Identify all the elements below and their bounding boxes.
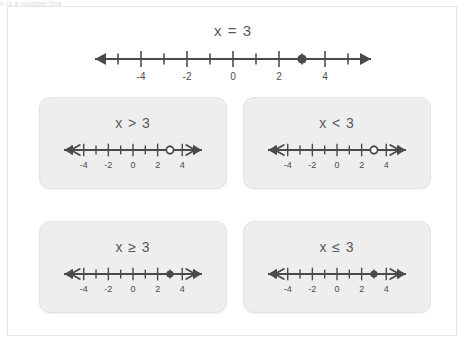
- card-number-line: -4-2024: [53, 138, 213, 176]
- tick-label: 0: [334, 160, 339, 170]
- tick-label: -4: [80, 284, 88, 294]
- card-greater-than-or-equal[interactable]: x ≥ 3 -4-2024: [39, 221, 227, 313]
- tick-label: -4: [137, 71, 146, 82]
- tick-label: 4: [384, 284, 389, 294]
- card-title: x < 3: [244, 114, 430, 132]
- main-title: x = 3: [8, 21, 458, 41]
- tick-label: 0: [230, 71, 236, 82]
- card-number-line: -4-2024: [53, 262, 213, 300]
- tick-label: 4: [180, 160, 185, 170]
- tick-label: 0: [130, 160, 135, 170]
- card-number-line: -4-2024: [257, 138, 417, 176]
- page-frame: x = 3 -4-2024 x > 3 -4-2024 x < 3 -4-202…: [7, 6, 457, 336]
- inequality-cards-grid: x > 3 -4-2024 x < 3 -4-2024 x ≥ 3 -4-202…: [39, 97, 431, 321]
- tick-label: 4: [180, 284, 185, 294]
- number-line-graphic: -4-2024: [257, 138, 417, 176]
- tick-label: 2: [359, 160, 364, 170]
- card-less-than[interactable]: x < 3 -4-2024: [243, 97, 431, 189]
- tick-label: 2: [359, 284, 364, 294]
- card-title: x > 3: [40, 114, 226, 132]
- card-less-than-or-equal[interactable]: x ≤ 3 -4-2024: [243, 221, 431, 313]
- tick-label: 2: [276, 71, 282, 82]
- tick-label: -2: [183, 71, 192, 82]
- tick-label: -2: [104, 284, 112, 294]
- tick-label: 4: [384, 160, 389, 170]
- tick-label: -4: [284, 160, 292, 170]
- main-number-line-block: x = 3 -4-2024: [8, 21, 458, 91]
- number-line-graphic: -4-2024: [83, 45, 383, 89]
- card-greater-than[interactable]: x > 3 -4-2024: [39, 97, 227, 189]
- number-line-graphic: -4-2024: [53, 262, 213, 300]
- tick-label: -2: [308, 160, 316, 170]
- tick-label: 4: [322, 71, 328, 82]
- number-line-graphic: -4-2024: [257, 262, 417, 300]
- tick-label: 0: [130, 284, 135, 294]
- card-title: x ≤ 3: [244, 238, 430, 256]
- tick-label: 2: [155, 284, 160, 294]
- card-number-line: -4-2024: [257, 262, 417, 300]
- tick-label: -4: [284, 284, 292, 294]
- tick-label: -2: [104, 160, 112, 170]
- tick-label: -2: [308, 284, 316, 294]
- tick-label: 2: [155, 160, 160, 170]
- main-number-line: -4-2024: [83, 45, 383, 89]
- number-line-graphic: -4-2024: [53, 138, 213, 176]
- tick-label: -4: [80, 160, 88, 170]
- tick-label: 0: [334, 284, 339, 294]
- card-title: x ≥ 3: [40, 238, 226, 256]
